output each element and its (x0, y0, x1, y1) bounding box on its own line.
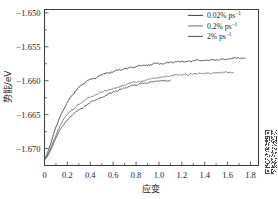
potential-energy-strain-chart: −1.650−1.655−1.660−1.665−1.670 00.20.40.… (0, 0, 278, 199)
y-tick-label: −1.665 (17, 110, 41, 120)
y-axis-label: 势能/eV (2, 70, 13, 104)
x-tick-label: 0 (42, 170, 46, 180)
y-tick-label: −1.670 (17, 144, 41, 154)
x-tick-label: 0.2 (62, 170, 73, 180)
x-tick-label: 1.6 (222, 170, 233, 180)
qr-code-watermark (264, 128, 278, 176)
chart-figure: −1.650−1.655−1.660−1.665−1.670 00.20.40.… (0, 0, 278, 199)
legend-label-3: 2% ps−1 (207, 31, 232, 41)
x-axis-label: 应变 (142, 183, 160, 194)
chart-legend: 0.02% ps−10.2% ps−12% ps−1 (188, 10, 241, 41)
x-tick-label: 0.8 (131, 170, 142, 180)
x-tick-label: 0.4 (85, 170, 96, 180)
y-tick-label: −1.655 (17, 42, 41, 52)
y-axis-tick-labels: −1.650−1.655−1.660−1.665−1.670 (17, 8, 41, 154)
series-line-2 (45, 72, 234, 160)
x-tick-label: 1.0 (154, 170, 165, 180)
qr-code-glyph (265, 130, 277, 174)
legend-label-1: 0.02% ps−1 (207, 10, 241, 20)
x-tick-label: 1.4 (199, 170, 210, 180)
x-tick-label: 0.6 (108, 170, 119, 180)
y-tick-label: −1.650 (17, 8, 41, 18)
data-series-group (45, 58, 245, 161)
legend-label-2: 0.2% ps−1 (207, 21, 238, 31)
x-axis-ticks (45, 162, 251, 166)
x-tick-label: 1.2 (177, 170, 188, 180)
x-axis-tick-labels: 00.20.40.60.81.01.21.41.61.8 (42, 170, 255, 180)
x-tick-label: 1.8 (245, 170, 256, 180)
y-axis-ticks (45, 13, 49, 166)
y-tick-label: −1.660 (17, 76, 41, 86)
